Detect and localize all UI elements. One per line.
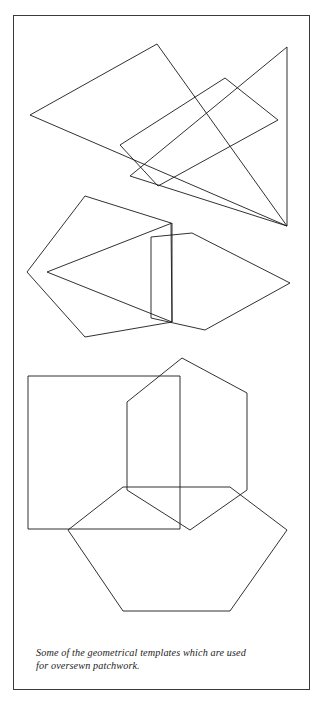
pentagon-middle-left (27, 196, 172, 337)
page-root: Some of the geometrical templates which … (0, 0, 324, 704)
large-triangle-top-left (30, 44, 287, 226)
caption-line-1: Some of the geometrical templates which … (36, 647, 284, 660)
right-triangle-top-right (130, 47, 287, 226)
square-bottom-left (28, 376, 180, 529)
triangle-middle-inner (47, 223, 172, 322)
shapes-canvas (0, 0, 324, 704)
hexagon-bottom-upper (127, 358, 247, 530)
parallelogram-top (120, 78, 278, 186)
caption-line-2: for oversewn patchwork. (36, 660, 284, 673)
hexagon-bottom-lower (68, 487, 287, 611)
figure-caption: Some of the geometrical templates which … (36, 647, 284, 672)
geometric-templates-figure (0, 0, 324, 704)
